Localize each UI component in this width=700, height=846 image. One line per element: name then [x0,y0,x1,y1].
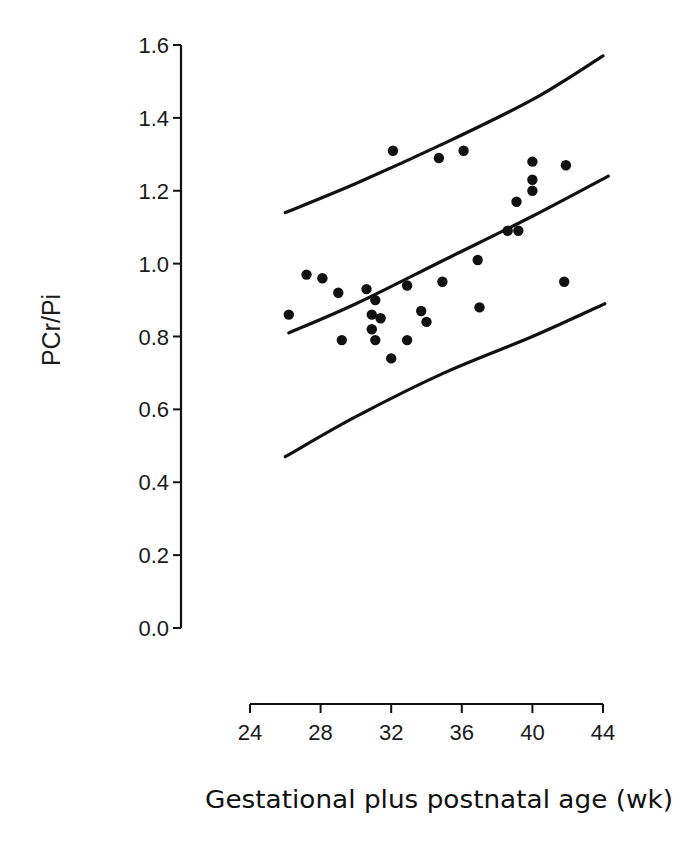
x-tick-label: 32 [379,720,403,745]
x-tick-label: 44 [591,720,615,745]
data-point [317,273,327,283]
data-point [561,160,571,170]
data-point [527,186,537,196]
x-axis-title: Gestational plus postnatal age (wk) [205,785,673,814]
data-point [284,309,294,319]
data-point [513,226,523,236]
data-point [559,277,569,287]
data-point [437,277,447,287]
y-tick-label: 0.2 [138,543,169,568]
y-tick-label: 1.0 [138,252,169,277]
scatter-chart: 0.00.20.40.60.81.01.21.41.6 242832364044… [0,0,700,846]
data-point [434,153,444,163]
y-tick-label: 0.8 [138,325,169,350]
data-point [402,280,412,290]
y-axis: 0.00.20.40.60.81.01.21.41.6 [138,33,181,641]
data-point [511,197,521,207]
data-point [337,335,347,345]
y-tick-label: 0.4 [138,470,169,495]
upper-prediction-limit [285,56,603,213]
data-point [375,313,385,323]
data-point [301,269,311,279]
regression-line [289,176,609,333]
y-tick-label: 0.6 [138,397,169,422]
fit-lines [285,56,608,457]
x-tick-label: 24 [238,720,262,745]
y-axis-title: PCr/Pi [37,294,65,366]
data-point [361,284,371,294]
data-point [458,146,468,156]
data-points [284,146,572,364]
x-tick-label: 40 [520,720,544,745]
x-tick-label: 28 [308,720,332,745]
data-point [503,226,513,236]
data-point [388,146,398,156]
data-point [527,156,537,166]
data-point [416,306,426,316]
data-point [370,335,380,345]
data-point [333,288,343,298]
data-point [474,302,484,312]
lower-prediction-limit [285,304,605,457]
data-point [370,295,380,305]
data-point [367,324,377,334]
data-point [527,175,537,185]
y-tick-label: 1.6 [138,33,169,58]
data-point [421,317,431,327]
y-tick-label: 1.4 [138,106,169,131]
y-tick-label: 1.2 [138,179,169,204]
x-tick-label: 36 [450,720,474,745]
data-point [402,335,412,345]
data-point [386,353,396,363]
data-point [473,255,483,265]
y-tick-label: 0.0 [138,616,169,641]
x-axis: 242832364044 [238,704,615,745]
